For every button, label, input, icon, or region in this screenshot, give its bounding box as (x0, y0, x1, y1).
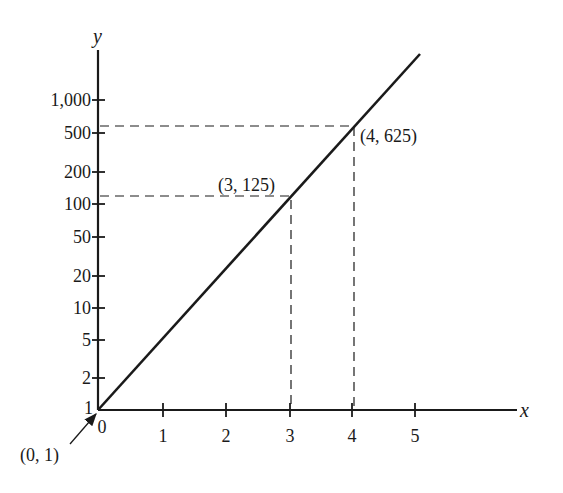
origin-arrow (70, 414, 96, 444)
svg-text:100: 100 (64, 194, 91, 214)
svg-text:50: 50 (73, 227, 91, 247)
x-axis-label: x (519, 399, 529, 421)
svg-text:1: 1 (159, 426, 168, 446)
point-label-4-625: (4, 625) (360, 126, 417, 147)
svg-text:10: 10 (73, 298, 91, 318)
svg-text:1: 1 (84, 398, 93, 418)
svg-text:5: 5 (411, 426, 420, 446)
chart: y x 1,000 500 200 100 50 20 10 5 2 1 0 1… (0, 0, 563, 493)
svg-text:3: 3 (286, 426, 295, 446)
data-line (98, 54, 420, 410)
svg-text:5: 5 (82, 330, 91, 350)
svg-text:20: 20 (73, 266, 91, 286)
svg-text:0: 0 (98, 417, 107, 437)
point-label-3-125: (3, 125) (218, 175, 275, 196)
svg-text:200: 200 (64, 162, 91, 182)
y-axis-label: y (91, 25, 102, 48)
y-tick-labels: 1,000 500 200 100 50 20 10 5 2 1 (51, 90, 94, 418)
x-tick-labels: 0 1 2 3 4 5 (98, 417, 420, 446)
svg-text:4: 4 (348, 426, 357, 446)
origin-label: (0, 1) (20, 445, 59, 466)
svg-text:2: 2 (82, 368, 91, 388)
svg-text:2: 2 (222, 426, 231, 446)
svg-text:500: 500 (64, 123, 91, 143)
svg-text:1,000: 1,000 (51, 90, 92, 110)
